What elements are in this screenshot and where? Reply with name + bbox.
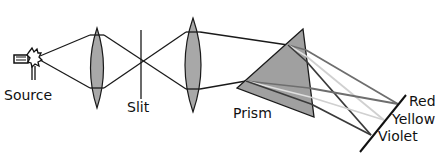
light-source-icon (14, 48, 42, 80)
converging-rays (90, 32, 186, 89)
lens-1 (91, 28, 104, 108)
light-rays (40, 35, 90, 88)
yellow-label: Yellow (391, 111, 435, 127)
spectroscope-diagram: Source Slit Prism Red Yellow Violet (0, 0, 438, 157)
slit-label: Slit (127, 99, 150, 115)
source-label: Source (4, 87, 52, 103)
prism (237, 29, 314, 117)
red-label: Red (409, 93, 436, 109)
prism-label: Prism (233, 105, 272, 121)
violet-label: Violet (378, 128, 418, 144)
